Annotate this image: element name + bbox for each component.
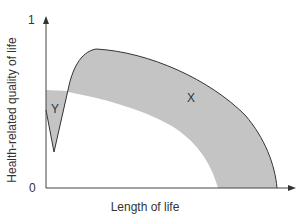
qaly-diagram: 1 0 Length of life Health-related qualit… [0,0,303,221]
y-tick-bottom: 0 [29,181,36,195]
region-x-label: X [187,91,195,105]
region-y-label: Y [51,102,59,116]
y-axis-title: Health-related quality of life [5,37,19,183]
x-axis-arrow-icon [288,185,296,191]
y-axis-arrow-icon [43,16,49,24]
y-tick-top: 1 [28,13,35,27]
region-y-area [46,90,68,152]
x-axis-title: Length of life [111,200,180,214]
region-x-area [68,49,277,188]
